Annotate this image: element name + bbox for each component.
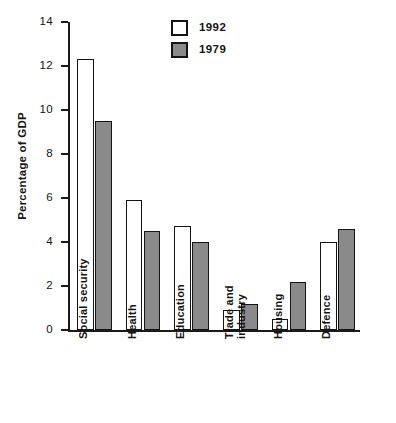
- legend-swatch-gray-square-icon: [171, 42, 188, 58]
- y-tick-mark: [61, 329, 68, 331]
- y-tick-mark: [61, 241, 68, 243]
- legend-label-1979: 1979: [199, 43, 226, 56]
- x-category-label: Trade and: [224, 285, 235, 339]
- bar-1979-social-security: [95, 121, 112, 330]
- bar-1979-housing: [290, 282, 307, 330]
- y-tick-label: 4: [23, 236, 53, 248]
- y-tick-mark: [61, 21, 68, 23]
- x-category-label: industry: [236, 294, 247, 339]
- y-axis-line: [68, 22, 70, 331]
- y-tick-label: 10: [23, 104, 53, 116]
- x-category-label: Education: [175, 284, 186, 339]
- legend-label-1992: 1992: [199, 21, 226, 34]
- y-tick-label: 12: [23, 60, 53, 72]
- x-category-label: Social security: [78, 258, 89, 339]
- chart-figure: Percentage of GDP 14121086420 Social sec…: [0, 0, 396, 423]
- y-tick-mark: [61, 285, 68, 287]
- y-tick-label: 14: [23, 16, 53, 28]
- y-tick-mark: [61, 197, 68, 199]
- x-category-label: Health: [127, 304, 138, 339]
- y-tick-mark: [61, 65, 68, 67]
- y-tick-mark: [61, 109, 68, 111]
- y-tick-label: 0: [23, 324, 53, 336]
- y-tick-label: 2: [23, 280, 53, 292]
- x-axis-line: [68, 330, 360, 332]
- y-tick-label: 8: [23, 148, 53, 160]
- bar-1979-health: [144, 231, 161, 330]
- y-tick-label: 6: [23, 192, 53, 204]
- bar-1979-defence: [338, 229, 355, 330]
- y-axis-title: Percentage of GDP: [16, 101, 28, 231]
- x-category-label: Housing: [273, 294, 284, 339]
- x-category-label: Defence: [321, 295, 332, 339]
- bar-1979-education: [192, 242, 209, 330]
- plot-area: Percentage of GDP 14121086420 Social sec…: [0, 0, 396, 423]
- legend-swatch-white-square-icon: [171, 20, 188, 36]
- y-tick-mark: [61, 153, 68, 155]
